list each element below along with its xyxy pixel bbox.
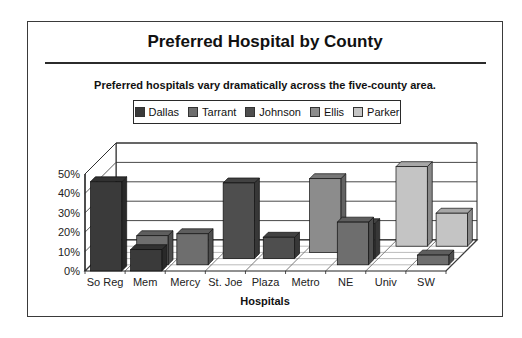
bar-dallas-so-reg <box>90 177 126 271</box>
x-tick-label: Mem <box>133 276 157 288</box>
x-tick-label: Plaza <box>252 276 280 288</box>
x-tick-label: Univ <box>375 276 398 288</box>
x-tick-label: Metro <box>292 276 320 288</box>
x-tick-label: Mercy <box>170 276 200 288</box>
x-tick-label: NE <box>338 276 353 288</box>
y-tick-label: 0% <box>64 265 80 277</box>
chart-plot-area: 0%10%20%30%40%50%So RegMemMercySt. JoePl… <box>0 0 522 338</box>
y-tick-label: 30% <box>58 207 80 219</box>
y-tick-label: 50% <box>58 168 80 180</box>
bar-tarrant-mercy <box>177 229 213 265</box>
bar-parker-univ <box>396 162 432 247</box>
y-tick-label: 20% <box>58 226 80 238</box>
x-tick-label: So Reg <box>87 276 124 288</box>
bar-tarrant-sw <box>418 250 454 265</box>
bar-dallas-mem <box>131 245 167 271</box>
bar-johnson-st-joe <box>223 178 259 259</box>
bar-parker-sw <box>436 208 472 246</box>
x-tick-label: St. Joe <box>208 276 242 288</box>
bar-johnson-plaza <box>263 232 299 258</box>
bar-tarrant-ne <box>337 217 373 265</box>
y-tick-label: 10% <box>58 246 80 258</box>
x-tick-label: SW <box>417 276 435 288</box>
y-tick-label: 40% <box>58 187 80 199</box>
